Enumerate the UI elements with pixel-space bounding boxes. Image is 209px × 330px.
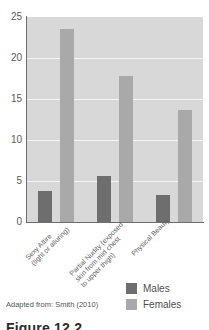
bar-group-partial-nudity: [97, 17, 133, 222]
legend-item-females: Females: [126, 299, 204, 310]
y-tick-20: 20: [11, 53, 22, 63]
x-axis-line: [26, 222, 204, 223]
figure-caption: Figure 12.2: [6, 320, 82, 330]
bar-females-sexy-attire: [60, 29, 74, 222]
bar-males-sexy-attire: [38, 191, 52, 222]
bar-groups: [27, 17, 203, 222]
legend-swatch-females-icon: [126, 299, 137, 310]
y-axis-tick-labels: 25 20 15 10 5 0: [0, 12, 24, 224]
source-attribution: Adapted from: Smith (2010): [6, 300, 98, 309]
bar-chart: 25 20 15 10 5 0: [0, 0, 209, 235]
plot-area: [27, 17, 203, 222]
figure-container: 25 20 15 10 5 0: [0, 0, 209, 330]
x-label-partial-nudity: Partial Nudity (exposed skin from mid ch…: [68, 221, 137, 290]
legend-label-females: Females: [143, 299, 181, 310]
y-tick-5: 5: [16, 176, 22, 186]
legend-label-males: Males: [143, 283, 170, 294]
y-tick-25: 25: [11, 12, 22, 22]
bar-males-partial-nudity: [97, 176, 111, 222]
bar-females-partial-nudity: [119, 76, 133, 222]
x-label-sexy-attire: Sexy Attire (tight or alluring): [24, 220, 71, 267]
y-tick-10: 10: [11, 135, 22, 145]
legend-swatch-males-icon: [126, 283, 137, 294]
chart-legend: Males Females: [126, 283, 204, 315]
bar-group-sexy-attire: [38, 17, 74, 222]
x-axis-category-labels: Sexy Attire (tight or alluring) Partial …: [0, 226, 209, 288]
y-tick-15: 15: [11, 94, 22, 104]
bar-group-physical-beauty: [156, 17, 192, 222]
legend-item-males: Males: [126, 283, 204, 294]
bar-females-physical-beauty: [178, 110, 192, 222]
